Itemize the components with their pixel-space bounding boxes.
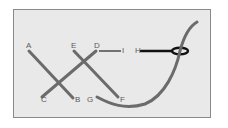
label-g: G — [87, 95, 93, 104]
stitch-e-f — [74, 51, 118, 97]
label-a: A — [26, 41, 32, 50]
label-c: C — [41, 95, 47, 104]
label-d: D — [94, 41, 100, 50]
label-b: B — [75, 95, 80, 104]
thread-curve — [97, 22, 197, 106]
cross-stitch-diagram: A E D I H C B G F — [0, 0, 228, 128]
label-f: F — [120, 95, 125, 104]
label-h: H — [135, 46, 141, 55]
label-e: E — [71, 41, 76, 50]
label-i: I — [122, 46, 124, 55]
